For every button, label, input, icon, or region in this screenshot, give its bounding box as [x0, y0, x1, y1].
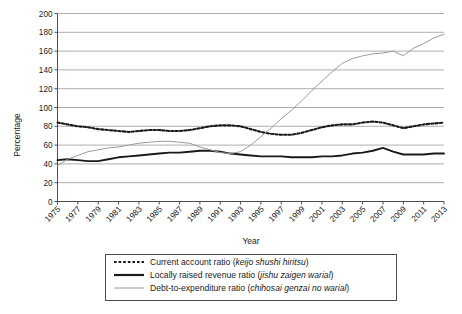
y-axis-tick-label: 200 [39, 10, 53, 19]
legend-label-1: Current account ratio (keijo shushi hiri… [150, 257, 309, 267]
legend-label-2: Locally raised revenue ratio (jishu zaig… [150, 270, 334, 280]
chart-container: 020406080100120140160180200 Percentage 1… [0, 0, 462, 314]
y-axis-tick-label: 20 [43, 179, 53, 188]
y-axis-tick-label: 60 [43, 141, 53, 150]
y-axis-label: Percentage [12, 113, 22, 157]
y-axis-tick-label: 80 [43, 122, 53, 131]
y-axis-tick-label: 140 [39, 66, 53, 75]
y-axis-tick-label: 100 [39, 104, 53, 113]
y-axis-tick-label: 120 [39, 85, 53, 94]
y-axis-tick-label: 0 [48, 198, 53, 207]
y-axis-tick-label: 40 [43, 160, 53, 169]
legend-label-3: Debt-to-expenditure ratio (chihosai genz… [150, 283, 349, 293]
y-axis-tick-label: 160 [39, 47, 53, 56]
x-axis-label: Year [242, 236, 259, 246]
line-chart: 020406080100120140160180200 Percentage 1… [0, 0, 462, 314]
y-axis-tick-label: 180 [39, 28, 53, 37]
